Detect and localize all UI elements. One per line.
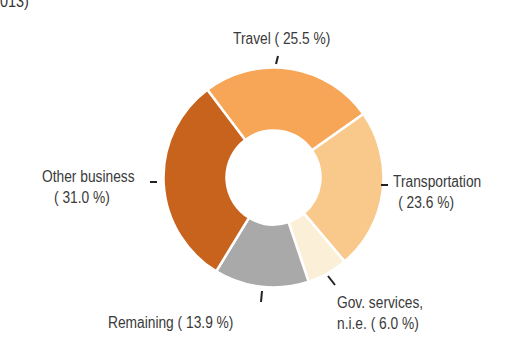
label-transportation: Transportation ( 23.6 %) [393, 171, 481, 213]
label-gov-name: Gov. services, [337, 292, 423, 313]
tick-gov-services [328, 276, 335, 285]
label-travel-text: Travel ( 25.5 %) [233, 28, 330, 49]
label-transportation-value: ( 23.6 %) [393, 192, 481, 213]
label-other-value: ( 31.0 %) [42, 187, 135, 208]
label-other-business: Other business ( 31.0 %) [42, 166, 135, 208]
label-remaining: Remaining ( 13.9 %) [108, 312, 233, 333]
tick-travel [276, 56, 278, 64]
tick-remaining [261, 291, 262, 302]
label-gov-services: Gov. services, n.i.e. ( 6.0 %) [337, 292, 423, 334]
label-transportation-name: Transportation [393, 171, 481, 192]
label-gov-value: n.i.e. ( 6.0 %) [337, 313, 423, 334]
label-other-name: Other business [42, 166, 135, 187]
label-remaining-text: Remaining ( 13.9 %) [108, 312, 233, 333]
label-travel: Travel ( 25.5 %) [233, 28, 330, 49]
